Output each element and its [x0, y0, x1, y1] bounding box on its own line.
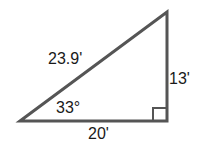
triangle-diagram: 23.9' 13' 33° 20': [0, 0, 205, 145]
triangle: [20, 12, 167, 121]
angle-label: 33°: [56, 99, 80, 116]
horizontal-leg-label: 20': [88, 125, 109, 142]
vertical-leg-label: 13': [169, 70, 190, 87]
right-angle-marker: [153, 108, 167, 121]
hypotenuse-label: 23.9': [48, 50, 82, 67]
